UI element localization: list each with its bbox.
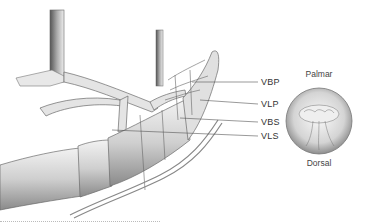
bottom-dotted-divider [0, 221, 160, 222]
diagram-canvas: VBP VLP VBS VLS Palmar Dorsal [0, 0, 376, 224]
retractor-right [156, 30, 163, 86]
finger-anatomy-illustration [0, 0, 376, 224]
cross-section-disc [286, 88, 352, 154]
label-palmar: Palmar [289, 69, 349, 79]
label-dorsal: Dorsal [289, 158, 349, 168]
label-vbp: VBP [261, 77, 280, 87]
label-vls: VLS [261, 131, 279, 141]
retractor-left [16, 10, 64, 86]
label-vlp: VLP [261, 99, 279, 109]
label-vbs: VBS [261, 117, 280, 127]
